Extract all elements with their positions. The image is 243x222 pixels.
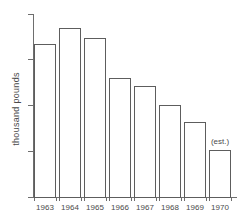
bar-1969 bbox=[184, 122, 206, 198]
x-axis-tick-mark bbox=[34, 198, 35, 201]
plot-area: 010203040 196319641965196619671968196919… bbox=[0, 0, 243, 222]
bar-1965 bbox=[84, 38, 106, 198]
bar-annotation-1970: (est.) bbox=[204, 138, 236, 146]
x-axis-tick-mark bbox=[131, 198, 132, 201]
y-axis-tick-mark bbox=[28, 197, 33, 198]
y-axis-tick-mark bbox=[28, 59, 33, 60]
x-axis-tick-mark bbox=[159, 198, 160, 201]
x-axis-tick-mark bbox=[109, 198, 110, 201]
y-axis-tick: 40 bbox=[0, 14, 243, 15]
bar-1964 bbox=[59, 28, 81, 198]
bar-1966 bbox=[109, 78, 131, 198]
y-axis-tick-mark bbox=[28, 151, 33, 152]
x-axis-tick-mark bbox=[81, 198, 82, 201]
x-axis-tick-mark bbox=[134, 198, 135, 201]
bar-1963 bbox=[34, 44, 56, 198]
x-axis-tick-mark bbox=[209, 198, 210, 201]
x-axis-tick-mark bbox=[59, 198, 60, 201]
x-axis-tick-mark bbox=[231, 198, 232, 201]
x-axis-tick-mark bbox=[156, 198, 157, 201]
bar-1968 bbox=[159, 105, 181, 198]
x-axis-tick-label-1970: 1970 bbox=[204, 203, 236, 212]
x-axis-tick-mark bbox=[56, 198, 57, 201]
y-axis-tick-mark bbox=[28, 14, 33, 15]
x-axis-tick-mark bbox=[181, 198, 182, 201]
bar-chart: 010203040 196319641965196619671968196919… bbox=[0, 0, 243, 222]
y-axis-title: thousand pounds bbox=[11, 54, 21, 164]
x-axis-tick-mark bbox=[206, 198, 207, 201]
y-axis-tick-mark bbox=[28, 105, 33, 106]
x-axis-tick-mark bbox=[84, 198, 85, 201]
bar-1970 bbox=[209, 150, 231, 198]
x-axis-tick-mark bbox=[184, 198, 185, 201]
x-axis-tick-mark bbox=[106, 198, 107, 201]
bar-1967 bbox=[134, 86, 156, 198]
